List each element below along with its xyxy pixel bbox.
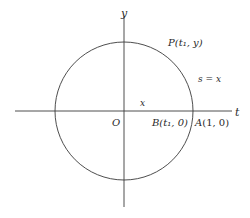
- point-b-coords: (t₁, 0): [159, 117, 188, 128]
- point-b-name: B: [151, 117, 159, 128]
- t-axis-label: t: [235, 106, 240, 119]
- unit-circle-diagram: y t O P(t₁, y) s = x x B(t₁, 0) A(1, 0): [0, 0, 250, 218]
- point-p-label: P(t₁, y): [167, 37, 203, 48]
- y-axis-label: y: [120, 7, 128, 20]
- point-b-label: B(t₁, 0): [151, 117, 188, 128]
- point-a-label: A(1, 0): [194, 117, 229, 128]
- point-a-name: A: [194, 117, 202, 128]
- origin-label: O: [112, 117, 120, 128]
- point-a-coords: (1, 0): [202, 117, 229, 128]
- point-p-coords: (t₁, y): [175, 37, 203, 48]
- segment-x-label: x: [140, 98, 145, 108]
- arc-length-label: s = x: [198, 74, 221, 84]
